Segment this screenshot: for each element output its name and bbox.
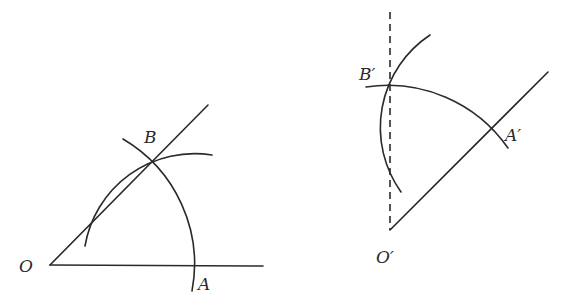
arc-centered-a bbox=[85, 154, 212, 246]
arc-centered-o bbox=[123, 139, 195, 291]
label-a: A bbox=[196, 274, 210, 294]
ray-ob bbox=[50, 105, 208, 265]
label-o-prime: O′ bbox=[376, 247, 394, 267]
copied-angle-figure: O′ A′ B′ bbox=[358, 12, 548, 267]
arc-centered-o-prime bbox=[366, 85, 508, 148]
original-angle-figure: O A B bbox=[19, 105, 263, 294]
label-b-prime: B′ bbox=[358, 64, 375, 84]
ray-oa-prime bbox=[390, 72, 548, 230]
label-b: B bbox=[143, 127, 157, 147]
base-ray-oa bbox=[50, 265, 263, 266]
label-o: O bbox=[19, 256, 33, 276]
arc-centered-a-prime bbox=[380, 35, 430, 192]
construction-diagram: O A B O′ A′ B′ bbox=[0, 0, 561, 301]
label-a-prime: A′ bbox=[503, 125, 521, 145]
